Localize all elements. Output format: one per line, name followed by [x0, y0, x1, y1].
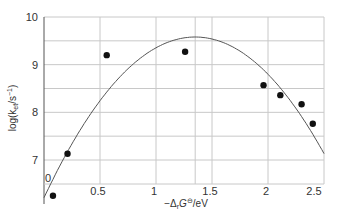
y-tick-label: 7	[32, 154, 38, 166]
chart-canvas: 7891000.511.522.5 −ΔrG⊖/eV log(ket/s−1)	[0, 0, 344, 214]
axes	[44, 17, 324, 204]
data-point	[310, 121, 316, 127]
data-point	[260, 82, 266, 88]
x-tick-label: 2.5	[306, 185, 321, 197]
fit-curve	[44, 37, 324, 198]
y-tick-label: 8	[32, 106, 38, 118]
tick-labels: 7891000.511.522.5	[26, 11, 322, 197]
data-point	[50, 193, 56, 199]
grid-lines	[44, 17, 324, 184]
x-tick-label: 0.5	[90, 185, 105, 197]
y-tick-label: 9	[32, 59, 38, 71]
data-point	[277, 92, 283, 98]
y-axis-label: log(ket/s−1)	[6, 85, 19, 132]
x-tick-label: 1.5	[202, 185, 217, 197]
data-point	[104, 52, 110, 58]
data-points	[50, 49, 316, 199]
data-point	[182, 49, 188, 55]
data-point	[64, 151, 70, 157]
axis-break-label: 0	[45, 172, 51, 184]
x-tick-label: 1	[151, 185, 157, 197]
y-tick-label: 10	[26, 11, 38, 23]
x-tick-label: 2	[263, 185, 269, 197]
data-point	[298, 101, 304, 107]
x-axis-label: −ΔrG⊖/eV	[164, 197, 208, 210]
